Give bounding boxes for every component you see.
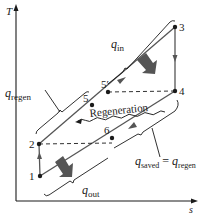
heat-out-arrow-icon [55, 156, 73, 177]
dashed-2-6 [39, 143, 112, 144]
q-in-label: qin [111, 37, 125, 53]
state-6-dot [110, 136, 114, 140]
brace-q-regen [36, 92, 89, 134]
state-2-dot [37, 142, 41, 146]
arrow-up-icon [37, 152, 42, 159]
arrow-down-left-icon [128, 122, 137, 129]
y-axis-label: T [6, 5, 13, 17]
arrow-up-right-icon [117, 77, 126, 84]
x-axis-label: s [189, 204, 193, 215]
state-1-label: 1 [29, 170, 35, 182]
process-1-2 [39, 144, 40, 176]
ts-diagram: T s 1 2 3 4 5 5′ [0, 0, 203, 219]
x-axis-arrow-icon [191, 199, 198, 204]
arrow-down-icon [173, 55, 178, 62]
regeneration-label: Regeneration [89, 101, 149, 119]
state-2-label: 2 [29, 138, 35, 150]
q-out-label: qout [82, 183, 100, 199]
cycle-processes [39, 27, 175, 176]
state-1-dot [38, 174, 42, 178]
state-3-label: 3 [179, 21, 185, 33]
state-points [37, 25, 177, 178]
q-saved-label: qsaved = qregen [135, 154, 196, 170]
y-axis-arrow-icon [14, 4, 19, 11]
state-3-dot [173, 25, 177, 29]
q-regen-label: qregen [5, 86, 31, 102]
state-5p-dot [106, 90, 110, 94]
state-4-label: 4 [179, 85, 185, 97]
state-6-label: 6 [104, 124, 110, 136]
regeneration-arrow-icon [75, 119, 82, 124]
heat-in-arrow-icon [137, 53, 157, 74]
state-4-dot [173, 89, 177, 93]
leader-q-regen [45, 90, 60, 112]
state-5p-label: 5′ [101, 78, 109, 90]
dashed-5p-4 [108, 91, 175, 92]
leader-q-saved [152, 128, 160, 157]
